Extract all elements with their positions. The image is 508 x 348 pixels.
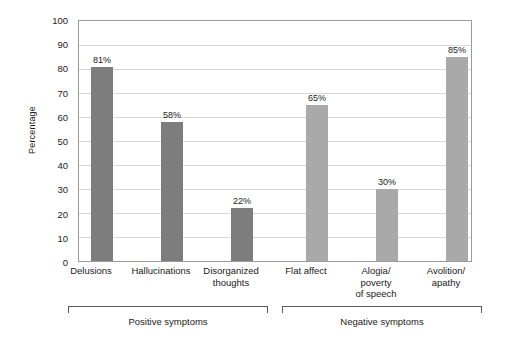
- bar-value-flat-affect: 65%: [308, 93, 326, 103]
- bar-disorganized-thoughts: 22%: [231, 208, 253, 261]
- y-axis-ticks: 100 90 80 70 60 50 40 30 20 10 0: [0, 20, 74, 262]
- bar-value-hallucinations: 58%: [163, 110, 181, 120]
- x-label-avolition-line2: apathy: [400, 277, 492, 289]
- gridline-30: [79, 189, 471, 190]
- bar-value-avolition: 85%: [448, 45, 466, 55]
- y-tick-60: 60: [57, 111, 68, 122]
- group-label-positive-symptoms: Positive symptoms: [68, 316, 268, 327]
- y-tick-70: 70: [57, 87, 68, 98]
- gridline-80: [79, 69, 471, 70]
- y-tick-10: 10: [57, 232, 68, 243]
- x-label-avolition-line1: Avolition/: [400, 265, 492, 277]
- bar-value-delusions: 81%: [93, 55, 111, 65]
- x-label-alogia-line3: of speech: [330, 288, 422, 300]
- bar-value-alogia: 30%: [378, 177, 396, 187]
- gridline-90: [79, 45, 471, 46]
- bracket-negative-symptoms: [282, 306, 482, 313]
- gridline-60: [79, 117, 471, 118]
- gridline-20: [79, 213, 471, 214]
- y-tick-50: 50: [57, 136, 68, 147]
- x-label-avolition: Avolition/ apathy: [400, 265, 492, 288]
- plot-area: 81% 58% 22% 65% 30% 85%: [78, 20, 472, 262]
- y-tick-20: 20: [57, 208, 68, 219]
- y-tick-100: 100: [52, 15, 68, 26]
- y-tick-40: 40: [57, 160, 68, 171]
- bar-value-disorganized-thoughts: 22%: [233, 196, 251, 206]
- gridline-10: [79, 237, 471, 238]
- gridline-40: [79, 165, 471, 166]
- bar-avolition: 85%: [446, 57, 468, 261]
- bar-delusions: 81%: [91, 67, 113, 261]
- y-tick-80: 80: [57, 63, 68, 74]
- bar-chart: Percentage 100 90 80 70 60 50 40 30 20 1…: [0, 0, 508, 348]
- bar-alogia: 30%: [376, 189, 398, 261]
- y-tick-30: 30: [57, 184, 68, 195]
- x-label-disorganized-line2: thoughts: [185, 277, 277, 289]
- group-label-negative-symptoms: Negative symptoms: [282, 316, 482, 327]
- gridline-70: [79, 93, 471, 94]
- bar-hallucinations: 58%: [161, 122, 183, 261]
- gridline-50: [79, 141, 471, 142]
- y-tick-90: 90: [57, 39, 68, 50]
- bar-flat-affect: 65%: [306, 105, 328, 261]
- bracket-positive-symptoms: [68, 306, 268, 313]
